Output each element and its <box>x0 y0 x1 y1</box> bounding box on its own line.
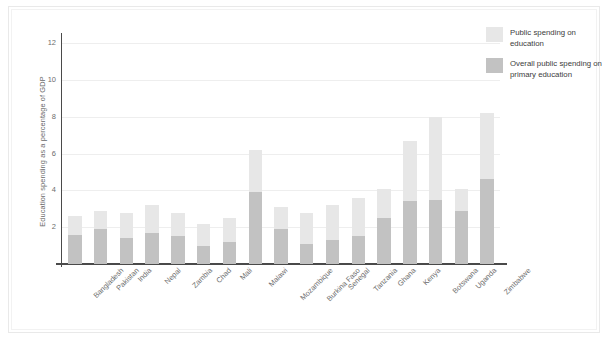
bar-segment-primary-education-spending[interactable] <box>300 244 313 264</box>
bar-group[interactable] <box>94 211 107 264</box>
x-axis-tick-label: Ghana <box>396 266 418 288</box>
x-axis-tick-label: Malawi <box>267 266 290 289</box>
bar-group[interactable] <box>171 213 184 264</box>
x-axis-tick-label: Mali <box>238 266 254 282</box>
y-axis-tick-label: 4 <box>30 186 56 194</box>
y-axis-tick-label: 8 <box>30 113 56 121</box>
bar-group[interactable] <box>274 207 287 264</box>
bar-segment-primary-education-spending[interactable] <box>145 233 158 264</box>
bar-group[interactable] <box>429 117 442 264</box>
bar-group[interactable] <box>455 189 468 264</box>
legend-item[interactable]: Overall public spending on primary educa… <box>486 58 604 80</box>
legend-item[interactable]: Public spending on education <box>486 27 604 49</box>
bar-segment-primary-education-spending[interactable] <box>249 192 262 264</box>
y-axis-tick-label: 6 <box>30 150 56 158</box>
x-axis-tick-label: India <box>136 266 154 284</box>
bar-group[interactable] <box>480 113 493 264</box>
y-axis-tick-labels: 24681012 <box>28 36 56 264</box>
chart-legend: Public spending on educationOverall publ… <box>486 27 604 89</box>
bar-group[interactable] <box>403 141 416 264</box>
x-axis-tick-label: Botswana <box>450 266 479 295</box>
x-axis-tick-label: Tanzania <box>372 266 399 293</box>
legend-label: Overall public spending on primary educa… <box>510 58 604 80</box>
gridline <box>62 80 500 81</box>
chart-figure: Education spending as a percentage of GD… <box>0 0 609 342</box>
bar-segment-primary-education-spending[interactable] <box>120 238 133 264</box>
bar-group[interactable] <box>197 224 210 264</box>
legend-swatch <box>486 58 503 73</box>
bar-segment-primary-education-spending[interactable] <box>429 200 442 264</box>
x-axis-tick-labels: BangladeshPakistanIndiaNepalZambiaChadMa… <box>62 266 500 336</box>
x-axis-tick-label: Chad <box>214 266 233 285</box>
y-axis-tick-label: 10 <box>30 76 56 84</box>
plot-area <box>62 36 500 264</box>
bar-segment-primary-education-spending[interactable] <box>197 246 210 264</box>
bar-segment-primary-education-spending[interactable] <box>94 229 107 264</box>
y-axis-tick-label: 2 <box>30 223 56 231</box>
bar-group[interactable] <box>300 213 313 264</box>
bar-group[interactable] <box>120 213 133 264</box>
bar-group[interactable] <box>145 205 158 264</box>
x-axis-tick-label: Nepal <box>163 266 183 286</box>
bar-segment-primary-education-spending[interactable] <box>455 211 468 264</box>
bar-group[interactable] <box>377 189 390 264</box>
bar-segment-primary-education-spending[interactable] <box>480 179 493 264</box>
gridline <box>62 43 500 44</box>
bar-segment-primary-education-spending[interactable] <box>274 229 287 264</box>
y-axis-tick-label: 12 <box>30 39 56 47</box>
bar-group[interactable] <box>223 218 236 264</box>
bar-segment-primary-education-spending[interactable] <box>403 201 416 264</box>
bar-segment-primary-education-spending[interactable] <box>223 242 236 264</box>
bar-segment-primary-education-spending[interactable] <box>68 235 81 264</box>
legend-label: Public spending on education <box>510 27 604 49</box>
bar-segment-primary-education-spending[interactable] <box>326 240 339 264</box>
x-axis-tick-label: Kenya <box>421 266 442 287</box>
bar-segment-primary-education-spending[interactable] <box>352 236 365 264</box>
bar-group[interactable] <box>68 216 81 264</box>
bar-group[interactable] <box>249 150 262 264</box>
bar-group[interactable] <box>326 205 339 264</box>
x-axis-tick-label: Zambia <box>190 266 214 290</box>
bar-group[interactable] <box>352 198 365 264</box>
bar-segment-primary-education-spending[interactable] <box>171 236 184 264</box>
bar-segment-primary-education-spending[interactable] <box>377 218 390 264</box>
legend-swatch <box>486 27 503 42</box>
